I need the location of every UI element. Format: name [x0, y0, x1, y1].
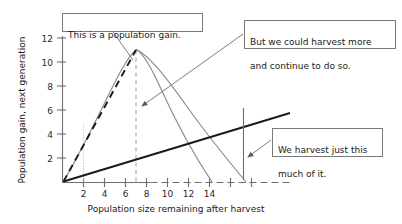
x-axis-tick-labels: 2 4 6 8 10 12 14 — [81, 189, 216, 199]
callout-population-gain: This is a population gain. — [62, 13, 203, 32]
x-tick-label: 12 — [183, 189, 194, 199]
y-tick-label: 12 — [42, 34, 53, 44]
y-axis-tick-labels: 12 10 8 6 4 2 — [42, 34, 54, 164]
y-tick-label: 6 — [47, 106, 53, 116]
x-axis-title: Population size remaining after harvest — [88, 204, 265, 214]
y-tick-label: 8 — [47, 82, 53, 92]
callout-harvest-amount: We harvest just this much of it. — [272, 128, 383, 157]
callout-harvest-amount-line2: much of it. — [278, 168, 377, 180]
x-tick-label: 8 — [144, 189, 150, 199]
x-tick-label: 10 — [162, 189, 174, 199]
x-tick-label: 6 — [123, 189, 129, 199]
y-tick-label: 2 — [47, 154, 53, 164]
x-tick-label: 14 — [204, 189, 216, 199]
callout-harvest-amount-line1: We harvest just this — [278, 144, 377, 156]
actual-harvest-line — [64, 113, 291, 182]
x-tick-label: 2 — [81, 189, 87, 199]
y-tick-label: 4 — [47, 130, 53, 140]
callout-harvest-more-line1: But we could harvest more — [250, 36, 390, 48]
x-tick-label: 4 — [102, 189, 108, 199]
y-tick-label: 10 — [42, 58, 54, 68]
population-gain-curve-path — [63, 50, 212, 183]
y-axis-title: Population gain, next generation — [17, 36, 27, 183]
leader-line-harvest-more — [142, 34, 243, 106]
callout-harvest-more: But we could harvest more and continue t… — [244, 20, 396, 49]
callout-harvest-more-line2: and continue to do so. — [250, 60, 390, 72]
leader-line-harvest-amount — [248, 140, 271, 157]
callout-population-gain-text: This is a population gain. — [68, 30, 181, 40]
figure-root: { "chart_data": { "type": "line", "title… — [0, 0, 402, 224]
y-axis-ticks — [57, 38, 66, 158]
population-gain-curve-tail — [137, 50, 247, 183]
